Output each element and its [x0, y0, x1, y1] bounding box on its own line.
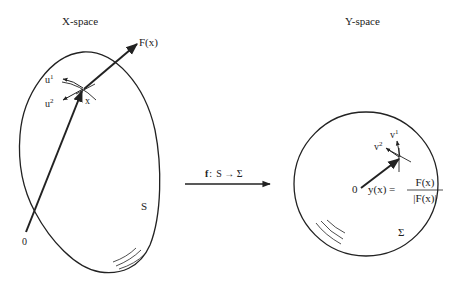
formula-denominator: |F(x)|: [413, 192, 436, 205]
x-space-title: X-space: [62, 15, 98, 27]
origin-to-x-vector: [26, 91, 82, 232]
set-s-label: S: [141, 200, 147, 212]
hatch-marks-s: [113, 248, 145, 269]
v1-label: v1: [390, 128, 399, 140]
y-origin-label: 0: [352, 183, 358, 195]
v2-label: v2: [374, 140, 383, 152]
x-origin-label: 0: [22, 236, 27, 247]
y-space-title: Y-space: [345, 15, 380, 27]
diagram-canvas: X-space u1 u2 x F(x) 0 S f:S → Σ Y-space…: [0, 0, 453, 285]
u2-label: u2: [45, 97, 54, 109]
point-x-label: x: [85, 95, 90, 106]
u1-label: u1: [45, 73, 54, 85]
f-of-x-label: F(x): [139, 36, 158, 49]
sphere-sigma-label: Σ: [398, 226, 404, 238]
formula-numerator: F(x): [416, 176, 435, 189]
u1-arrow: [63, 79, 83, 88]
formula-lhs: y(x) =: [368, 183, 395, 196]
mapping-label: f:S → Σ: [205, 168, 243, 179]
f-of-x-vector: [84, 44, 137, 89]
v2-arrow: [386, 148, 399, 157]
